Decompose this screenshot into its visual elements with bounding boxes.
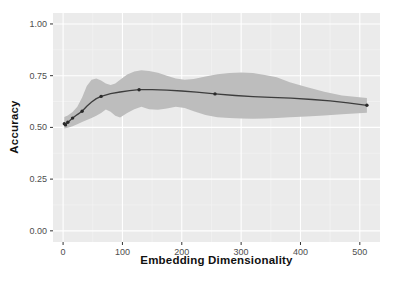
data-point [137,88,140,91]
data-point [66,121,69,124]
data-point [71,116,74,119]
accuracy-vs-dimensionality-chart: 01002003004005000.000.250.500.751.00 Acc… [0,0,398,282]
y-axis-title: Accuracy [8,100,20,153]
x-axis-title: Embedding Dimensionality [53,254,380,266]
data-point [99,95,102,98]
y-tick-label: 0.75 [29,71,47,81]
data-point [213,92,216,95]
y-tick-label: 0.25 [29,174,47,184]
y-tick-label: 0.00 [29,226,47,236]
data-point [64,123,67,126]
plot-svg: 01002003004005000.000.250.500.751.00 [0,0,398,282]
y-tick-label: 1.00 [29,19,47,29]
data-point [365,104,368,107]
data-point [80,110,83,113]
y-tick-label: 0.50 [29,122,47,132]
